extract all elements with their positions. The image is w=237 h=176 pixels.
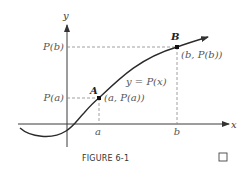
figure-canvas: y x P(b) P(a) a b A (a, P(a)) B (b, P(b)… <box>0 0 237 176</box>
y-axis-label: y <box>62 10 69 21</box>
point-a-name: A <box>89 85 98 96</box>
end-of-proof-mark <box>219 153 227 161</box>
x-axis-label: x <box>231 119 237 130</box>
y-tick-pb: P(b) <box>42 41 64 52</box>
point-a-coords: (a, P(a)) <box>104 92 145 103</box>
point-b-coords: (b, P(b)) <box>181 49 223 60</box>
x-tick-b: b <box>174 126 180 137</box>
point-b-name: B <box>170 31 179 42</box>
y-tick-pa: P(a) <box>43 92 65 103</box>
point-b-marker <box>175 45 179 49</box>
point-a-marker <box>97 96 101 100</box>
curve-label: y = P(x) <box>125 76 167 87</box>
x-tick-a: a <box>95 126 101 137</box>
figure-caption: FIGURE 6-1 <box>82 154 129 163</box>
